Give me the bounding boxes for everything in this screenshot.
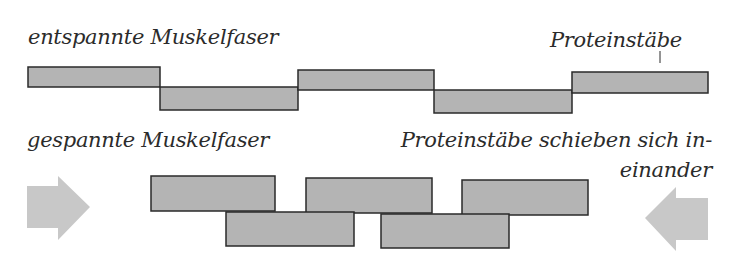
protein-rod (28, 67, 160, 87)
arrow-left-icon (645, 187, 708, 251)
protein-rod (226, 212, 354, 246)
protein-rod (434, 90, 572, 113)
contracted-fiber-bars (151, 176, 588, 248)
protein-rod (306, 178, 432, 213)
protein-rod (151, 176, 275, 211)
protein-rod (572, 72, 708, 93)
protein-rod (298, 70, 434, 90)
arrow-right-icon (27, 176, 90, 240)
protein-rod (381, 214, 509, 248)
muscle-fiber-diagram (0, 0, 735, 257)
protein-rod (462, 180, 588, 215)
relaxed-fiber-bars (28, 67, 708, 113)
protein-rod (160, 87, 298, 110)
